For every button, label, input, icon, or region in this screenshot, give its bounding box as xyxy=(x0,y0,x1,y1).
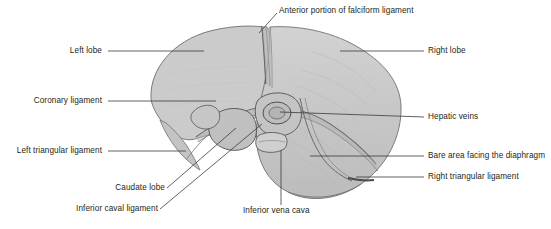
label-inferior-caval-ligament: Inferior caval ligament xyxy=(76,204,158,214)
label-right-triangular-ligament: Right triangular ligament xyxy=(428,172,519,182)
label-bare-area-facing-diaphragm: Bare area facing the diaphragm xyxy=(428,151,545,161)
label-right-lobe: Right lobe xyxy=(428,46,466,56)
hepatic-vein-ostium-inner xyxy=(269,107,285,119)
label-anterior-falciform-ligament: Anterior portion of falciform ligament xyxy=(279,6,414,16)
label-inferior-vena-cava: Inferior vena cava xyxy=(243,206,310,216)
label-caudate-lobe: Caudate lobe xyxy=(115,183,165,193)
label-coronary-ligament: Coronary ligament xyxy=(34,96,102,106)
inferior-caval-ligament-shape xyxy=(256,132,287,152)
label-left-triangular-ligament: Left triangular ligament xyxy=(17,146,102,156)
liver-anatomy-figure: Anterior portion of falciform ligament L… xyxy=(0,0,551,229)
liver-body xyxy=(151,26,401,199)
label-left-lobe: Left lobe xyxy=(70,46,102,56)
label-hepatic-veins: Hepatic veins xyxy=(428,112,478,122)
